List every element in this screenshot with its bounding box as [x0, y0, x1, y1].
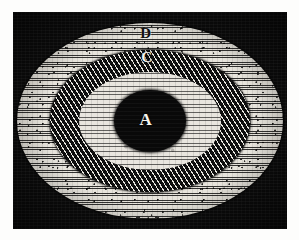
region-label-a: A [140, 111, 153, 128]
region-label-d: D [140, 26, 151, 41]
figure-root: D C A [0, 0, 299, 240]
region-label-c: C [141, 50, 152, 65]
